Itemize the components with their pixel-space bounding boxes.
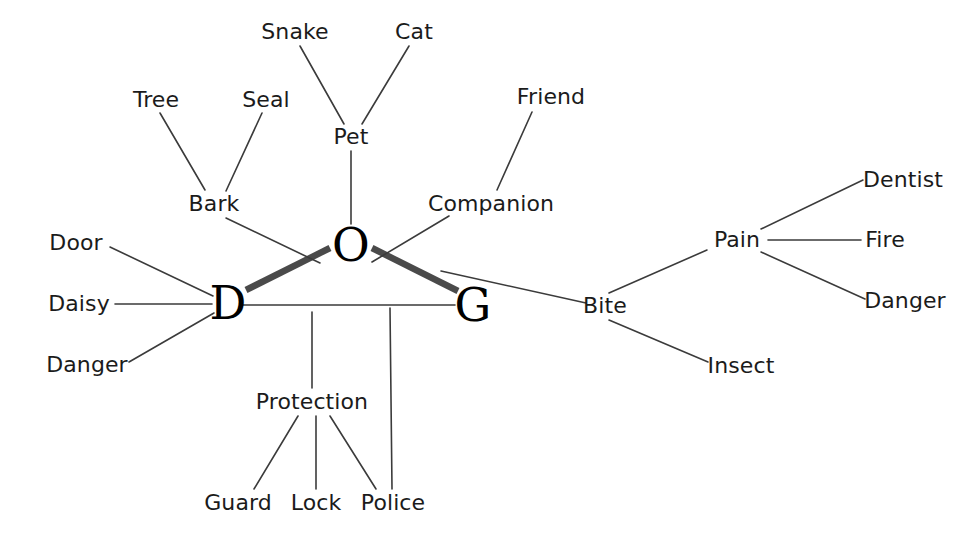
node-dentist[interactable]: Dentist [863,169,943,191]
edge-bark-D [226,218,320,263]
node-protection[interactable]: Protection [256,391,368,413]
edge-D-police [390,308,392,489]
edge-danger_l-D [129,313,214,362]
core-node-g[interactable]: G [455,282,492,328]
core-node-d[interactable]: D [210,280,247,326]
edge-protection-police [330,416,376,489]
node-danger_l[interactable]: Danger [46,354,128,376]
edge-friend-companion [497,112,532,190]
edge-snake-pet [300,46,344,124]
edge-protection-guard [254,416,298,489]
node-bite[interactable]: Bite [583,295,627,317]
node-danger_r[interactable]: Danger [864,290,946,312]
node-guard[interactable]: Guard [204,492,272,514]
node-lock[interactable]: Lock [291,492,342,514]
edge-bite-pain [609,250,707,293]
node-seal[interactable]: Seal [242,89,290,111]
node-pet[interactable]: Pet [334,126,369,148]
edge-seal-bark [226,113,262,191]
node-daisy[interactable]: Daisy [48,293,110,315]
edge-tree-bark [160,113,205,190]
edge-D-O [246,248,330,290]
node-tree[interactable]: Tree [133,89,179,111]
node-insect[interactable]: Insect [708,355,775,377]
node-cat[interactable]: Cat [395,21,433,43]
node-friend[interactable]: Friend [517,86,585,108]
edge-companion-O [372,216,449,262]
edges-group [110,46,865,489]
graph-edges-layer [0,0,977,540]
node-door[interactable]: Door [49,232,102,254]
node-companion[interactable]: Companion [428,193,554,215]
edge-door-D [110,247,213,296]
core-node-o[interactable]: O [332,222,370,268]
diagram-canvas: DOGTreeSealSnakeCatFriendBarkPetCompanio… [0,0,977,540]
node-pain[interactable]: Pain [714,229,760,251]
edge-pain-dentist [761,180,863,229]
node-bark[interactable]: Bark [189,193,240,215]
node-fire[interactable]: Fire [865,229,905,251]
edge-pain-danger_r [761,252,865,299]
node-police[interactable]: Police [361,492,425,514]
edge-cat-pet [362,46,409,124]
edge-bite-insect [609,320,708,362]
node-snake[interactable]: Snake [261,21,328,43]
